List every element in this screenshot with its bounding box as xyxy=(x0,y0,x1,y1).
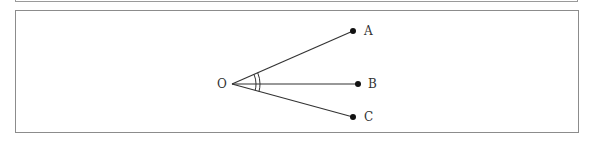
ray-oa xyxy=(232,31,353,84)
point-c xyxy=(350,114,356,120)
angle-arc-aob xyxy=(254,74,256,84)
label-a: A xyxy=(363,24,373,38)
label-b: B xyxy=(368,77,377,91)
point-a xyxy=(350,28,356,34)
label-c: C xyxy=(364,110,373,124)
ray-oc xyxy=(232,84,353,117)
label-o: O xyxy=(217,77,227,91)
angle-arc-boc-outer xyxy=(259,84,260,91)
point-b xyxy=(355,81,361,87)
angle-diagram: O A B C xyxy=(0,0,592,143)
angle-arc-boc xyxy=(255,84,256,90)
angle-arc-aob-outer xyxy=(258,73,260,84)
